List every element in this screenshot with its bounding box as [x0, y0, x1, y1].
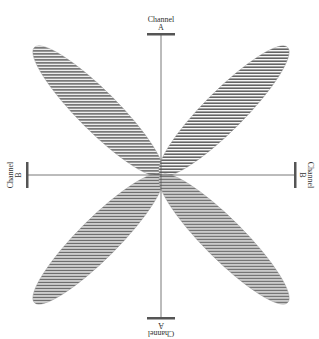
label-bottom: Channel A: [147, 321, 174, 338]
label-right: Channel B: [298, 162, 315, 189]
bottom-end-bar: [147, 317, 175, 320]
label-left: Channel B: [6, 161, 23, 188]
right-end-bar: [294, 162, 297, 188]
lobe-lower-left: [20, 161, 176, 317]
lobe-upper-right: [146, 33, 302, 189]
lobe-upper-left: [20, 33, 176, 189]
lobe-lower-right: [146, 161, 302, 317]
svg-text:B: B: [298, 172, 307, 177]
label-top: Channel A: [148, 15, 175, 32]
left-end-bar: [26, 162, 29, 188]
svg-text:B: B: [14, 172, 23, 177]
svg-text:A: A: [158, 23, 164, 32]
polar-diagram: Channel A Channel A Channel B Channel B: [0, 0, 319, 339]
top-end-bar: [147, 33, 175, 36]
svg-text:A: A: [158, 321, 164, 330]
